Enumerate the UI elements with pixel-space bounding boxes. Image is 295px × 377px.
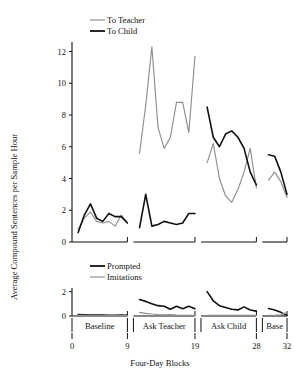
x-tick-label: 19 — [191, 341, 200, 351]
legend-label-to-child: To Child — [107, 26, 138, 36]
upper-panel: 024681012To TeacherTo Child — [58, 15, 288, 247]
series-line-imitations — [140, 312, 195, 315]
x-tick-label: 9 — [125, 341, 129, 351]
phase-label-base: Base — [266, 321, 283, 331]
phase-label-ask-child: Ask Child — [211, 321, 247, 331]
x-axis-label: Four-Day Blocks — [130, 358, 190, 368]
legend-label-prompted: Prompted — [107, 261, 141, 271]
y-tick-label: 0 — [62, 237, 66, 247]
phase-label-baseline: Baseline — [85, 321, 115, 331]
y-tick-label: 10 — [58, 78, 67, 88]
series-line-to-child — [207, 107, 256, 185]
legend-label-imitations: Imitations — [107, 272, 143, 282]
y-tick-label: 2 — [62, 287, 66, 297]
series-line-prompted — [140, 300, 195, 310]
x-tick-label: 28 — [252, 341, 261, 351]
series-line-to-child — [269, 155, 287, 195]
series-line-to-teacher — [140, 47, 195, 153]
multi-phase-line-chart: Average Compound Sentences per Sample Ho… — [0, 0, 295, 377]
x-tick-label: 0 — [70, 341, 74, 351]
series-line-to-child — [140, 194, 195, 227]
y-tick-label: 8 — [62, 110, 66, 120]
series-line-imitations — [269, 312, 287, 315]
y-tick-label: 12 — [58, 47, 67, 57]
y-tick-label: 6 — [62, 142, 66, 152]
phase-label-row: BaselineAsk TeacherAsk ChildBase — [72, 318, 287, 332]
figure-container: Average Compound Sentences per Sample Ho… — [0, 0, 295, 377]
lower-panel: 02PromptedImitations — [62, 261, 287, 321]
legend-label-to-teacher: To Teacher — [107, 15, 145, 25]
series-line-prompted — [207, 292, 256, 311]
series-line-to-teacher — [207, 144, 256, 203]
x-axis: 09192832 — [70, 333, 291, 351]
phase-label-ask-teacher: Ask Teacher — [143, 321, 186, 331]
x-tick-label: 32 — [283, 341, 292, 351]
y-tick-label: 2 — [62, 205, 66, 215]
y-axis-label: Average Compound Sentences per Sample Ho… — [9, 134, 19, 300]
series-line-prompted — [269, 308, 287, 315]
y-tick-label: 0 — [62, 311, 66, 321]
y-tick-label: 4 — [62, 174, 67, 184]
